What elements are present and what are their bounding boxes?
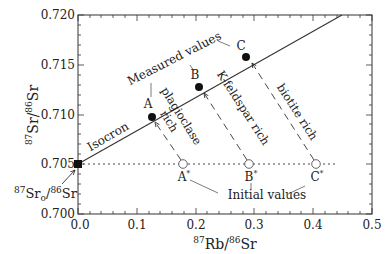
y-axis-title: 87Sr/86Sr: [24, 85, 41, 146]
sr0-pointer-arrow: [62, 170, 75, 184]
measured-point-b: [195, 83, 203, 91]
initial-values-label: Initial values: [228, 188, 307, 202]
x-tick-label: 0.2: [186, 218, 205, 232]
initial-point-b: [245, 160, 254, 169]
point-label-b-star: B*: [245, 169, 258, 184]
point-label-b: B: [191, 68, 200, 82]
initial-ratio-marker: [74, 160, 82, 168]
axis-ticks: [78, 15, 372, 214]
x-axis-title: 87Rb/86Sr: [193, 235, 257, 252]
plot-frame: [78, 15, 372, 214]
x-tick-label: 0.1: [127, 218, 146, 232]
isochron-chart: 0.0 0.1 0.2 0.3 0.4 0.5 0.700 0.705 0.71…: [0, 0, 387, 254]
y-tick-label: 0.700: [41, 207, 75, 221]
point-label-c: C: [236, 39, 245, 53]
point-label-a-star: A*: [177, 169, 191, 184]
measured-values-label: Measured values: [125, 29, 224, 88]
x-tick-label: 0.5: [362, 218, 381, 232]
y-tick-label: 0.710: [41, 108, 75, 122]
y-tick-label: 0.720: [41, 8, 75, 22]
plagioclase-rich-label: plagioclaserich: [147, 84, 205, 154]
x-tick-label: 0.3: [244, 218, 263, 232]
point-label-a: A: [143, 97, 153, 111]
y-tick-label: 0.705: [41, 157, 75, 171]
point-label-c-star: C*: [310, 169, 323, 184]
isochron-label: Isocron: [85, 119, 132, 154]
initial-point-a: [179, 160, 188, 169]
measured-point-c: [242, 53, 250, 61]
x-tick-label: 0.4: [303, 218, 322, 232]
measured-point-a: [148, 113, 156, 121]
initial-point-c: [312, 160, 321, 169]
kfeldspar-rich-label: K-feldspar rich: [214, 68, 273, 148]
sr0-label: 87Sro/86Sr: [14, 185, 78, 203]
y-tick-label: 0.715: [41, 58, 75, 72]
